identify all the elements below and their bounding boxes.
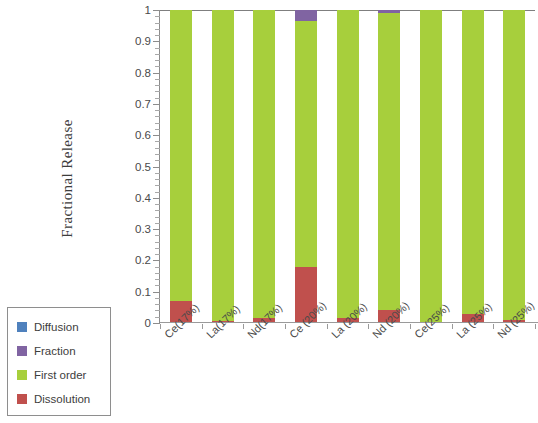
y-axis-tick-label: 0.1 <box>107 286 151 298</box>
bar-group[interactable] <box>378 10 400 323</box>
x-axis-tick <box>493 324 494 329</box>
legend-color-swatch <box>17 370 27 380</box>
legend-item-label: First order <box>34 369 86 381</box>
chart-legend: DiffusionFractionFirst orderDissolution <box>7 307 111 416</box>
y-axis-tick-label: 0.2 <box>107 254 151 266</box>
y-axis-major-tick <box>153 104 160 105</box>
legend-color-swatch <box>17 346 27 356</box>
stacked-bar-chart: Fractional Release 00.10.20.30.40.50.60.… <box>0 0 538 423</box>
y-axis-major-tick <box>153 229 160 230</box>
x-axis-tick <box>535 324 536 329</box>
y-axis-tick-label: 0 <box>107 317 151 329</box>
bar-segment-first-order[interactable] <box>337 10 359 318</box>
x-axis-tick <box>327 324 328 329</box>
y-axis-major-tick <box>153 292 160 293</box>
x-axis-tick <box>160 324 161 329</box>
y-axis-major-tick <box>153 73 160 74</box>
legend-color-swatch <box>17 322 27 332</box>
bar-group[interactable] <box>420 10 442 323</box>
bar-segment-first-order[interactable] <box>170 10 192 301</box>
y-axis-tick-label: 0.4 <box>107 192 151 204</box>
bar-group[interactable] <box>212 10 234 323</box>
bar-segment-first-order[interactable] <box>253 10 275 318</box>
y-axis-title: Fractional Release <box>59 79 76 279</box>
x-axis-tick <box>243 324 244 329</box>
y-axis-tick-label: 0.5 <box>107 161 151 173</box>
bar-segment-fraction[interactable] <box>378 10 400 13</box>
legend-color-swatch <box>17 394 27 404</box>
legend-item-label: Fraction <box>34 345 76 357</box>
x-axis-tick <box>368 324 369 329</box>
bar-segment-first-order[interactable] <box>420 10 442 323</box>
x-axis-tick <box>202 324 203 329</box>
legend-item[interactable]: Fraction <box>17 339 110 363</box>
bar-segment-first-order[interactable] <box>462 10 484 314</box>
legend-item-label: Dissolution <box>34 393 90 405</box>
x-axis-tick <box>452 324 453 329</box>
y-axis-major-tick <box>153 260 160 261</box>
legend-item-label: Diffusion <box>34 321 79 333</box>
bar-segment-first-order[interactable] <box>378 13 400 310</box>
y-axis-major-tick <box>153 135 160 136</box>
y-axis-major-tick <box>153 198 160 199</box>
y-axis-major-tick <box>153 10 160 11</box>
bar-group[interactable] <box>337 10 359 323</box>
legend-item[interactable]: Dissolution <box>17 387 110 411</box>
y-axis-tick-label: 0.7 <box>107 98 151 110</box>
bar-group[interactable] <box>462 10 484 323</box>
x-axis-tick <box>285 324 286 329</box>
bar-group[interactable] <box>503 10 525 323</box>
bar-segment-first-order[interactable] <box>295 21 317 267</box>
x-axis-tick <box>410 324 411 329</box>
y-axis-tick-label: 0.6 <box>107 129 151 141</box>
bar-segment-fraction[interactable] <box>295 10 317 21</box>
bar-segment-first-order[interactable] <box>503 10 525 320</box>
y-axis-major-tick <box>153 167 160 168</box>
bar-group[interactable] <box>253 10 275 323</box>
legend-item[interactable]: Diffusion <box>17 315 110 339</box>
bar-segment-first-order[interactable] <box>212 10 234 321</box>
y-axis-tick-label: 1 <box>107 4 151 16</box>
y-axis-tick-label: 0.9 <box>107 35 151 47</box>
bar-group[interactable] <box>295 10 317 323</box>
y-axis-major-tick <box>153 41 160 42</box>
y-axis-major-tick <box>153 323 160 324</box>
y-axis-tick-label: 0.8 <box>107 67 151 79</box>
y-axis-tick-label: 0.3 <box>107 223 151 235</box>
bar-group[interactable] <box>170 10 192 323</box>
legend-item[interactable]: First order <box>17 363 110 387</box>
